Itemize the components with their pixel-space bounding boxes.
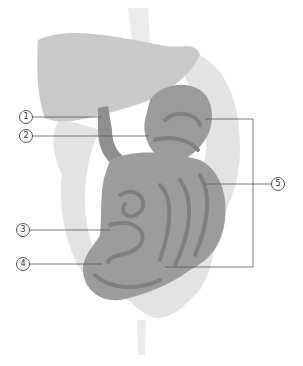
- callout-5: 5: [271, 177, 285, 191]
- digestive-system-diagram: [0, 0, 303, 366]
- rectum: [137, 320, 146, 355]
- callout-4: 4: [16, 257, 30, 271]
- stomach: [144, 85, 212, 162]
- callout-3: 3: [16, 223, 30, 237]
- callout-1: 1: [19, 110, 33, 124]
- callout-2: 2: [19, 129, 33, 143]
